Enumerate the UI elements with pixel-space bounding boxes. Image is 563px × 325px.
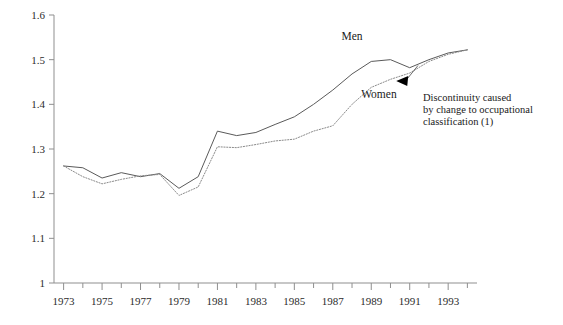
x-axis-tick-label: 1973 [53,295,76,307]
y-axis-tick-label: 1 [40,277,46,289]
x-axis-tick-label: 1985 [283,295,306,307]
annotation-arrow-icon [396,76,408,86]
line-chart-canvas: 11.11.21.31.41.51.6197319751977197919811… [0,0,563,325]
y-axis-tick-label: 1.6 [31,9,45,21]
x-axis-tick-label: 1975 [91,295,114,307]
chart-figure: 11.11.21.31.41.51.6197319751977197919811… [0,0,563,325]
annotation-text-line: by change to occupational [423,104,533,115]
x-axis-tick-label: 1981 [206,295,228,307]
series-line-men [64,50,468,188]
y-axis-tick-label: 1.4 [31,98,45,110]
y-axis-tick-label: 1.3 [31,143,45,155]
y-axis-tick-label: 1.2 [31,188,45,200]
x-axis-tick-label: 1983 [245,295,268,307]
series-label-women: Women [361,88,397,100]
x-axis-tick-label: 1979 [168,295,191,307]
x-axis-tick-label: 1989 [360,295,383,307]
annotation-text-line: classification (1) [423,116,494,128]
x-axis-tick-label: 1987 [322,295,345,307]
y-axis-tick-label: 1.1 [31,232,45,244]
series-label-men: Men [341,30,362,42]
x-axis-tick-label: 1991 [399,295,421,307]
annotation-text-line: Discontinuity caused [423,92,512,103]
x-axis-tick-label: 1993 [437,295,460,307]
x-axis-tick-label: 1977 [130,295,153,307]
y-axis-tick-label: 1.5 [31,54,45,66]
